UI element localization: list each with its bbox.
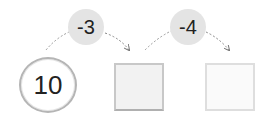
arrow-step-2-out: [206, 32, 229, 50]
operation-bubble-2: -4: [170, 9, 206, 45]
operation-bubble-1: -3: [68, 9, 104, 45]
start-value-circle: 10: [19, 57, 77, 113]
arrow-step-1-out: [105, 33, 129, 50]
arrow-step-2-in: [145, 31, 171, 50]
arrow-step-1-in: [46, 32, 69, 50]
answer-box-2[interactable]: [205, 63, 255, 111]
answer-box-1[interactable]: [114, 63, 164, 111]
